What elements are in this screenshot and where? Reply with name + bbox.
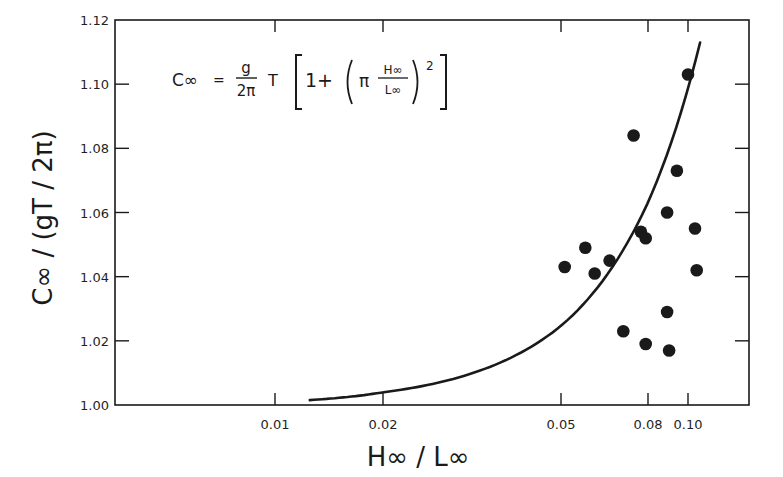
x-tick-label: 0.02 [369, 417, 398, 432]
eq-right-paren [413, 60, 418, 104]
eq-equals: = [213, 72, 225, 88]
equation-annotation: C∞ = g 2π T 1+ π H∞ L∞ 2 [172, 55, 446, 109]
data-point [579, 242, 592, 255]
eq-power: 2 [426, 59, 434, 73]
data-point [627, 129, 640, 142]
y-tick-label: 1.00 [80, 398, 109, 413]
plot-frame [115, 20, 749, 405]
eq-frac-den: 2π [237, 82, 256, 100]
y-tick-label: 1.04 [80, 270, 109, 285]
y-tick-label: 1.06 [80, 206, 109, 221]
data-point [661, 206, 674, 219]
x-axis-title: H∞ / L∞ [367, 442, 470, 472]
data-point [588, 267, 601, 280]
data-point [682, 68, 695, 81]
data-point [639, 338, 652, 351]
data-point [558, 261, 571, 274]
eq-left-bracket [296, 55, 302, 109]
data-point [663, 344, 676, 357]
eq-left-paren [348, 60, 353, 104]
y-tick-label: 1.02 [80, 334, 109, 349]
x-tick-label: 0.10 [674, 417, 703, 432]
eq-frac-num: g [241, 59, 251, 77]
y-axis-title: C∞ / (gT / 2π) [28, 130, 58, 305]
eq-right-bracket [440, 55, 446, 109]
data-point [690, 264, 703, 277]
y-tick-label: 1.12 [80, 13, 109, 28]
x-tick-label: 0.08 [634, 417, 663, 432]
eq-T: T [267, 71, 278, 90]
data-point [603, 254, 616, 267]
eq-inner-num: H∞ [383, 63, 402, 77]
chart: 1.001.021.041.061.081.101.12 0.010.020.0… [0, 0, 783, 477]
x-tick-label: 0.05 [547, 417, 576, 432]
data-point [617, 325, 630, 338]
data-point [661, 306, 674, 319]
eq-lhs: C∞ [172, 70, 198, 90]
data-point [689, 222, 702, 235]
eq-one-plus: 1+ [305, 69, 333, 91]
y-tick-label: 1.08 [80, 141, 109, 156]
eq-inner-den: L∞ [385, 83, 402, 97]
y-tick-label: 1.10 [80, 77, 109, 92]
eq-pi: π [359, 71, 369, 91]
data-point [671, 165, 684, 178]
data-point [639, 232, 652, 245]
x-tick-label: 0.01 [261, 417, 290, 432]
